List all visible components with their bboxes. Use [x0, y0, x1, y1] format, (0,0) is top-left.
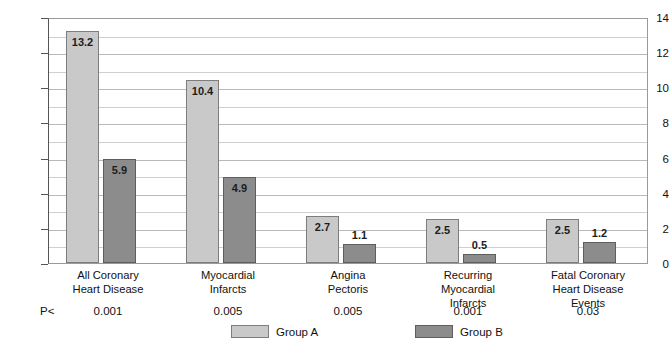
- gridline: [49, 89, 647, 90]
- bar: 10.4: [186, 80, 219, 263]
- plot-area: 13.25.910.44.92.71.12.50.52.51.2: [48, 18, 648, 264]
- category-label-line: Fatal Coronary: [528, 268, 648, 282]
- bar: 1.1: [343, 244, 376, 263]
- bar-value-label: 2.5: [427, 224, 458, 236]
- gridline: [49, 212, 647, 213]
- y-axis-tick-mark: [41, 53, 48, 54]
- p-value: 0.005: [168, 305, 288, 317]
- x-axis-category-label: AnginaPectoris: [288, 268, 408, 296]
- bar-value-label: 1.2: [584, 227, 615, 239]
- gridline: [49, 195, 647, 196]
- p-value: 0.001: [48, 305, 168, 317]
- gridline: [49, 72, 647, 73]
- bar: 2.7: [306, 216, 339, 263]
- bar-chart: Annual Rate / 1,000 at Risk 14121086420 …: [0, 0, 669, 347]
- x-axis-category-label: Fatal CoronaryHeart DiseaseEvents: [528, 268, 648, 310]
- x-axis-category-label: MyocardialInfarcts: [168, 268, 288, 296]
- category-label-line: Myocardial: [408, 282, 528, 296]
- category-label-line: Recurring: [408, 268, 528, 282]
- x-axis-category-label: All CoronaryHeart Disease: [48, 268, 168, 296]
- gridline: [49, 37, 647, 38]
- category-label-line: Pectoris: [288, 282, 408, 296]
- legend-item: Group A: [231, 325, 318, 338]
- legend-label: Group A: [276, 326, 318, 338]
- bar-value-label: 13.2: [67, 36, 98, 48]
- bar-value-label: 5.9: [104, 164, 135, 176]
- p-value: 0.03: [528, 305, 648, 317]
- legend-item: Group B: [415, 325, 503, 338]
- bar-value-label: 10.4: [187, 85, 218, 97]
- legend-label: Group B: [460, 326, 503, 338]
- bar: 13.2: [66, 31, 99, 263]
- legend-swatch: [415, 325, 453, 338]
- y-axis-tick-mark: [41, 123, 48, 124]
- bar-value-label: 4.9: [224, 182, 255, 194]
- bar: 2.5: [426, 219, 459, 263]
- bar: 5.9: [103, 159, 136, 263]
- category-label-line: Myocardial: [168, 268, 288, 282]
- gridline: [49, 107, 647, 108]
- gridline: [49, 54, 647, 55]
- x-axis-category-label: RecurringMyocardialInfarcts: [408, 268, 528, 310]
- y-axis-tick-mark: [41, 194, 48, 195]
- bar-value-label: 2.5: [547, 224, 578, 236]
- bar: 4.9: [223, 177, 256, 263]
- p-value: 0.005: [288, 305, 408, 317]
- category-label-line: Angina: [288, 268, 408, 282]
- y-axis-tick-mark: [41, 229, 48, 230]
- gridline: [49, 124, 647, 125]
- category-label-line: All Coronary: [48, 268, 168, 282]
- y-axis-tick-mark: [41, 159, 48, 160]
- y-axis-tick-mark: [41, 18, 48, 19]
- bar: 2.5: [546, 219, 579, 263]
- y-axis-tick-mark: [41, 88, 48, 89]
- category-label-line: Infarcts: [168, 282, 288, 296]
- bar: 0.5: [463, 254, 496, 263]
- bar-value-label: 1.1: [344, 229, 375, 241]
- gridline: [49, 142, 647, 143]
- y-axis-tick-mark: [41, 264, 48, 265]
- category-label-line: Heart Disease: [528, 282, 648, 296]
- bar-value-label: 2.7: [307, 221, 338, 233]
- category-label-line: Heart Disease: [48, 282, 168, 296]
- gridline: [49, 160, 647, 161]
- bar-value-label: 0.5: [464, 239, 495, 251]
- p-value: 0.001: [408, 305, 528, 317]
- gridline: [49, 177, 647, 178]
- legend-swatch: [231, 325, 269, 338]
- bar: 1.2: [583, 242, 616, 263]
